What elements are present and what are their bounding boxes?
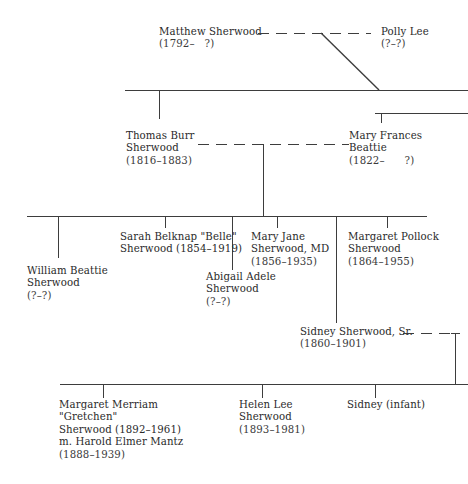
person-thomas-burr-sherwood: Thomas Burr Sherwood (1816–1883) xyxy=(126,130,195,167)
sibling-line-gen3 xyxy=(27,216,427,217)
person-name-line2: Sherwood xyxy=(348,243,439,255)
descent-line-gen4 xyxy=(455,333,456,385)
person-name-line1: Helen Lee xyxy=(239,399,305,411)
person-name-line1: Mary Jane xyxy=(251,231,329,243)
person-line3: Sherwood (1892–1961) xyxy=(59,424,183,436)
descent-line-sarah xyxy=(165,216,166,228)
person-name-line2: Sherwood xyxy=(126,142,195,154)
person-name-line2: Beattie xyxy=(349,142,422,154)
descent-line-mary-frances xyxy=(381,113,382,123)
person-sidney-sherwood-sr: Sidney Sherwood, Sr. (1860–1901) xyxy=(300,326,413,351)
person-dates: (1822– ?) xyxy=(349,155,422,167)
person-line5: (1888–1939) xyxy=(59,449,183,461)
descent-line-helen xyxy=(262,384,263,398)
person-sarah-belknap-sherwood: Sarah Belknap "Belle" Sherwood (1854–191… xyxy=(120,231,242,256)
descent-line-thomas xyxy=(159,90,160,119)
person-name-line2: Sherwood xyxy=(206,283,276,295)
person-name-line2: Sherwood, MD xyxy=(251,243,329,255)
person-name-line1: William Beattie xyxy=(27,265,108,277)
person-abigail-adele-sherwood: Abigail Adele Sherwood (?–?) xyxy=(206,271,276,308)
person-dates: (1856–1935) xyxy=(251,256,329,268)
person-dates: (?–?) xyxy=(206,296,276,308)
descent-line-gen3 xyxy=(263,144,264,217)
person-name-line1: Mary Frances xyxy=(349,130,422,142)
person-name-line1: Thomas Burr xyxy=(126,130,195,142)
person-dates: (1860–1901) xyxy=(300,338,413,350)
descent-line-william xyxy=(58,216,59,258)
person-line2: "Gretchen" xyxy=(59,411,183,423)
person-name-line2: Sherwood (1854–1919) xyxy=(120,243,242,255)
marriage-line-thomas-mary-frances xyxy=(198,144,349,145)
person-name: Sidney (infant) xyxy=(347,399,425,411)
person-mary-jane-sherwood: Mary Jane Sherwood, MD (1856–1935) xyxy=(251,231,329,268)
person-dates: (1864–1955) xyxy=(348,256,439,268)
person-name: Sidney Sherwood, Sr. xyxy=(300,326,413,338)
person-dates: (?–?) xyxy=(27,290,108,302)
person-dates: (1893–1981) xyxy=(239,424,305,436)
person-william-beattie-sherwood: William Beattie Sherwood (?–?) xyxy=(27,265,108,302)
person-line1: Margaret Merriam xyxy=(59,399,183,411)
descent-line-margaret-merriam xyxy=(103,384,104,398)
person-helen-lee-sherwood: Helen Lee Sherwood (1893–1981) xyxy=(239,399,305,436)
person-sidney-infant: Sidney (infant) xyxy=(347,399,425,411)
person-name-line1: Sarah Belknap "Belle" xyxy=(120,231,242,243)
person-name-line1: Margaret Pollock xyxy=(348,231,439,243)
person-margaret-merriam-sherwood: Margaret Merriam "Gretchen" Sherwood (18… xyxy=(59,399,183,461)
person-mary-frances-beattie: Mary Frances Beattie (1822– ?) xyxy=(349,130,422,167)
sibling-line-gen4 xyxy=(60,384,468,385)
person-name-line2: Sherwood xyxy=(27,277,108,289)
sibling-line-gen2-sherwood xyxy=(125,90,468,91)
person-name-line1: Abigail Adele xyxy=(206,271,276,283)
person-dates: (1816–1883) xyxy=(126,155,195,167)
marriage-line-sidney-sr xyxy=(403,333,451,334)
person-line4: m. Harold Elmer Mantz xyxy=(59,436,183,448)
descent-line-mary-jane xyxy=(277,216,278,228)
descent-line-margaret-pollock xyxy=(387,216,388,228)
descent-line-sidney-sr xyxy=(336,216,337,323)
person-name-line2: Sherwood xyxy=(239,411,305,423)
descent-line-sidney-infant xyxy=(375,384,376,398)
person-margaret-pollock-sherwood: Margaret Pollock Sherwood (1864–1955) xyxy=(348,231,439,268)
sibling-line-gen2-beattie xyxy=(375,113,468,114)
